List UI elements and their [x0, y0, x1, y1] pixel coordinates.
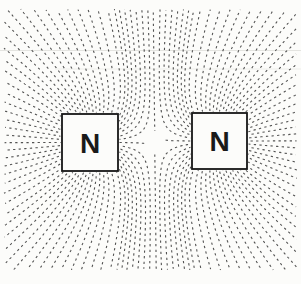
- field-line: [5, 172, 77, 249]
- field-line: [119, 9, 132, 126]
- field-line: [249, 134, 297, 138]
- field-line: [153, 9, 155, 131]
- field-line: [5, 149, 60, 158]
- field-line: [108, 10, 120, 113]
- field-line: [249, 144, 297, 148]
- field-line: [249, 147, 296, 155]
- field-line: [5, 127, 60, 136]
- field-line: [4, 60, 68, 113]
- field-line: [248, 162, 296, 187]
- field-line: [4, 36, 76, 113]
- field-line: [226, 13, 297, 111]
- field-line: [216, 171, 261, 269]
- field-line: [206, 10, 231, 112]
- field-line: [163, 140, 190, 141]
- field-line: [4, 164, 61, 194]
- field-line: [8, 10, 84, 112]
- field-line: [185, 10, 194, 116]
- field-line: [39, 173, 90, 270]
- field-line: [61, 173, 96, 270]
- field-line: [91, 172, 109, 269]
- pole-left: N: [62, 114, 118, 171]
- field-line: [201, 170, 221, 270]
- field-line: [248, 112, 297, 128]
- field-line: [120, 149, 146, 269]
- field-line: [5, 102, 61, 126]
- field-line: [5, 22, 81, 113]
- field-line: [210, 170, 240, 269]
- field-line: [5, 146, 61, 151]
- field-line: [78, 10, 104, 113]
- field-line: [223, 10, 286, 111]
- field-line: [233, 42, 297, 112]
- field-line: [216, 10, 261, 112]
- field-line: [88, 10, 109, 113]
- field-line: [165, 147, 191, 269]
- field-line: [50, 173, 93, 271]
- pole-right: N: [192, 113, 247, 169]
- field-line: [119, 159, 132, 269]
- field-line: [169, 150, 191, 268]
- field-line: [220, 9, 275, 112]
- field-line: [196, 170, 211, 269]
- field-line: [248, 150, 296, 162]
- field-line: [155, 153, 156, 270]
- field-line: [5, 135, 61, 139]
- field-line: [5, 159, 61, 183]
- field-line: [5, 172, 73, 237]
- field-line: [81, 172, 104, 269]
- field-line: [14, 173, 84, 270]
- field-line: [46, 10, 93, 113]
- field-line: [4, 48, 73, 112]
- field-line: [5, 82, 61, 116]
- field-line: [5, 156, 61, 175]
- field-line: [119, 152, 140, 269]
- field-line: [248, 104, 296, 125]
- field-line: [189, 170, 201, 269]
- figure-magnetic-field-two-north-poles: N N: [0, 0, 301, 284]
- field-line: [34, 9, 90, 112]
- field-line: [185, 167, 195, 269]
- field-line: [169, 10, 191, 132]
- field-line: [119, 164, 128, 269]
- field-line: [181, 10, 191, 120]
- pole-left-label: N: [80, 128, 100, 159]
- field-line: [229, 170, 296, 251]
- field-line: [164, 10, 190, 134]
- field-line: [4, 172, 80, 264]
- field-line: [119, 10, 128, 121]
- field-line: [210, 10, 241, 112]
- field-line: [5, 169, 61, 204]
- field-line: [233, 170, 297, 239]
- field-line: [120, 10, 146, 136]
- field-line: [114, 9, 125, 116]
- field-line: [248, 167, 296, 197]
- field-line: [57, 10, 96, 112]
- pole-right-label: N: [209, 126, 229, 157]
- field-line: [206, 170, 230, 269]
- field-line: [248, 85, 297, 116]
- field-line: [236, 170, 296, 227]
- field-line: [201, 10, 220, 111]
- field-line: [195, 10, 210, 112]
- field-line: [119, 156, 136, 269]
- field-line: [4, 111, 60, 129]
- field-line: [101, 172, 115, 270]
- field-diagram-svg: N N: [0, 0, 301, 284]
- field-line: [248, 95, 296, 120]
- field-line: [120, 143, 147, 144]
- field-line: [249, 127, 296, 135]
- field-lines: [4, 9, 297, 270]
